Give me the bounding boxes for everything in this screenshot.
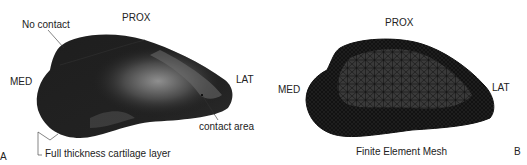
panel-letter-b: B [514,146,521,157]
no-contact-label: No contact [22,19,70,30]
panel-a-shaded-model: No contact PROX MED LAT contact area Ful… [0,0,262,165]
prox-label-a: PROX [122,12,150,23]
lat-label-a: LAT [236,74,254,85]
mesh-caption: Finite Element Mesh [356,146,447,157]
panel-letter-a: A [0,151,7,162]
lat-label-b: LAT [492,82,510,93]
no-contact-leader [48,30,64,48]
med-label-b: MED [278,84,300,95]
contact-area-label: contact area [199,121,254,132]
cartilage-layer-label: Full thickness cartilage layer [45,148,171,159]
med-label-a: MED [10,76,32,87]
prox-label-b: PROX [385,17,413,28]
panel-b-mesh-model: PROX MED LAT Finite Element Mesh B [262,0,527,165]
